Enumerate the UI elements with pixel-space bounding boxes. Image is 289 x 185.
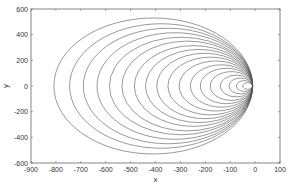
curve-line — [229, 78, 253, 94]
y-tick-label: 400 — [16, 31, 28, 38]
curve-line — [157, 53, 253, 118]
x-tick-label: -500 — [124, 166, 138, 173]
curve-line — [54, 18, 253, 154]
curve-line — [97, 33, 253, 140]
y-tick-label: -400 — [14, 134, 28, 141]
x-tick-label: -700 — [74, 166, 88, 173]
curve-line — [200, 68, 252, 103]
x-tick-label: -300 — [173, 166, 187, 173]
x-tick-label: -100 — [223, 166, 237, 173]
curve-line — [109, 37, 252, 135]
y-tick-label: -600 — [14, 160, 28, 167]
curve-line — [122, 41, 253, 131]
x-axis-label: x — [154, 175, 158, 184]
curve-family — [54, 18, 253, 154]
x-tick-label: 100 — [274, 166, 286, 173]
x-tick-label: -800 — [49, 166, 63, 173]
x-tick-label: -200 — [198, 166, 212, 173]
curve-line — [243, 83, 253, 90]
y-tick-label: 600 — [16, 6, 28, 13]
x-tick-label: -400 — [148, 166, 162, 173]
chart: -900-800-700-600-500-400-300-200-1000100… — [0, 0, 289, 185]
y-tick-label: -200 — [14, 108, 28, 115]
x-tick-label: -600 — [99, 166, 113, 173]
y-tick-label: 200 — [16, 57, 28, 64]
x-tick-label: 0 — [253, 166, 257, 173]
x-tick-label: -900 — [24, 166, 38, 173]
y-tick-label: 0 — [24, 83, 28, 90]
curve-line — [236, 81, 252, 92]
curve-line — [134, 46, 252, 127]
curve-line — [190, 65, 252, 107]
y-axis-label: y — [1, 84, 10, 88]
curve-line — [210, 72, 252, 101]
